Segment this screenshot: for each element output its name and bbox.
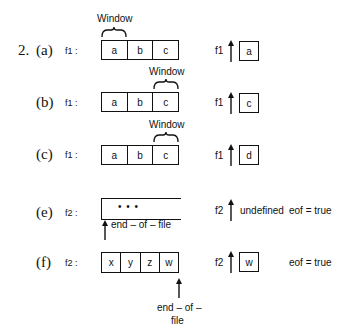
buffer-cell: b: [128, 93, 154, 111]
part-a-window-value: a: [239, 41, 259, 61]
part-c-window-value: d: [239, 145, 259, 165]
part-b-file-buffer: a b c: [101, 92, 179, 112]
part-b-up-arrow-icon: [228, 92, 234, 114]
buffer-cell: c: [153, 146, 178, 164]
part-c-file-buffer: a b c: [101, 145, 179, 165]
part-b-pointer-file: f1: [215, 97, 223, 108]
buffer-cell: a: [102, 146, 128, 164]
part-f-eof-marker-line2: file: [171, 315, 184, 326]
part-f-label: (f): [36, 254, 51, 271]
part-f-file-buffer: x y z w: [101, 252, 179, 273]
part-e-file-buffer: • • •: [101, 198, 181, 220]
part-e-label: (e): [36, 204, 53, 221]
part-b-file-label: f1 :: [65, 98, 78, 108]
part-f-up-arrow-icon: [228, 251, 234, 273]
part-a-label: (a): [36, 42, 53, 59]
part-c-file-label: f1 :: [65, 150, 78, 160]
buffer-cell: b: [128, 146, 154, 164]
part-c-label: (c): [36, 146, 53, 163]
buffer-cell: a: [102, 41, 128, 59]
problem-number: 2.: [18, 42, 29, 59]
part-a-file-label: f1 :: [65, 46, 78, 56]
part-c-up-arrow-icon: [228, 144, 234, 166]
part-f-eof-arrow-icon: [176, 278, 182, 298]
part-c-window-brace-icon: [153, 131, 179, 143]
part-c-pointer-file: f1: [215, 150, 223, 161]
part-b-window-label: Window: [149, 66, 185, 77]
part-e-up-arrow-icon: [228, 199, 234, 221]
buffer-cell: y: [121, 253, 140, 272]
part-f-window-value: w: [239, 252, 259, 272]
part-b-window-brace-icon: [153, 78, 179, 90]
buffer-cell: x: [102, 253, 121, 272]
part-a-pointer-file: f1: [215, 45, 223, 56]
part-a-window-label: Window: [97, 13, 133, 24]
buffer-cell: c: [153, 41, 178, 59]
buffer-cell: b: [128, 41, 154, 59]
buffer-cell: a: [102, 93, 128, 111]
part-b-label: (b): [36, 94, 54, 111]
part-e-pointer-file: f2: [215, 205, 223, 216]
part-e-eof-arrow-icon: [102, 220, 108, 240]
part-e-eof-marker: end – of – file: [111, 219, 171, 230]
part-f-file-label: f2 :: [65, 258, 78, 268]
part-a-file-buffer: a b c: [101, 40, 179, 60]
part-f-pointer-file: f2: [215, 257, 223, 268]
part-a-up-arrow-icon: [228, 40, 234, 62]
part-e-window-value: undefined: [240, 205, 284, 216]
part-f-eof-status: eof = true: [289, 257, 332, 268]
part-b-window-value: c: [239, 93, 259, 113]
part-e-file-label: f2 :: [65, 208, 78, 218]
buffer-cell: z: [141, 253, 160, 272]
part-f-eof-marker-line1: end – of –: [157, 302, 201, 313]
part-c-window-label: Window: [149, 119, 185, 130]
part-a-window-brace-icon: [101, 26, 127, 38]
buffer-cell: w: [160, 253, 178, 272]
buffer-ellipsis: • • •: [118, 201, 139, 212]
buffer-cell: c: [153, 93, 178, 111]
part-e-eof-status: eof = true: [289, 205, 332, 216]
